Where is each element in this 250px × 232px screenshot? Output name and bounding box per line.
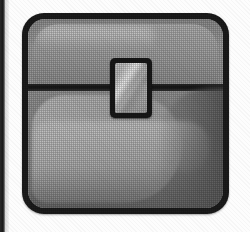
treasure-chest-icon[interactable] (22, 13, 229, 214)
page-gutter-shadow (5, 0, 9, 232)
chest-lid-sheen (38, 27, 155, 49)
chest-clasp-icon[interactable] (110, 58, 152, 118)
chest-icon-inner (28, 19, 223, 208)
screenshot-canvas: Treasure chest (0, 0, 250, 232)
chest-clasp-face (115, 63, 147, 113)
chest-body-shadow-bottom (28, 170, 223, 208)
